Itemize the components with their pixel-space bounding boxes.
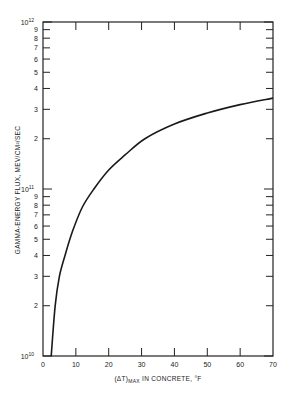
- y-tick-label: 8: [34, 202, 38, 209]
- y-tick-label: 1012: [21, 17, 35, 26]
- y-tick-label: 1011: [21, 184, 34, 193]
- y-tick-label: 3: [34, 273, 38, 280]
- y-tick-label: 2: [34, 302, 38, 309]
- plot-axes: [43, 22, 273, 356]
- chart-canvas: 1010234567891011234567891012 01020304050…: [0, 0, 289, 393]
- x-tick-label: 50: [203, 361, 211, 368]
- x-tick-label: 0: [41, 361, 45, 368]
- y-tick-label: 5: [34, 69, 38, 76]
- y-tick-label: 4: [34, 85, 38, 92]
- x-axis-label: (ΔT)MAX IN CONCRETE, °F: [114, 375, 201, 384]
- y-tick-label: 6: [34, 56, 38, 63]
- x-tick-label: 70: [269, 361, 277, 368]
- y-tick-label: 6: [34, 223, 38, 230]
- y-tick-label: 7: [34, 44, 38, 51]
- x-tick-label: 40: [171, 361, 179, 368]
- y-tick-label: 5: [34, 236, 38, 243]
- x-tick-label: 30: [138, 361, 146, 368]
- y-axis-ticks: 1010234567891011234567891012: [21, 17, 273, 360]
- x-tick-label: 10: [72, 361, 80, 368]
- y-axis-label: GAMMA-ENERGY FLUX, MEV/CM²/SEC: [14, 126, 21, 254]
- data-curve: [51, 98, 273, 356]
- y-tick-label: 4: [34, 252, 38, 259]
- y-tick-label: 7: [34, 211, 38, 218]
- x-tick-label: 60: [236, 361, 244, 368]
- y-tick-label: 3: [34, 106, 38, 113]
- y-tick-label: 8: [34, 35, 38, 42]
- x-axis-ticks: 010203040506070: [41, 22, 277, 368]
- y-tick-label: 9: [34, 193, 38, 200]
- y-tick-label: 1010: [21, 351, 35, 360]
- x-tick-label: 20: [105, 361, 113, 368]
- y-tick-label: 9: [34, 26, 38, 33]
- plot-frame: [43, 22, 273, 356]
- y-tick-label: 2: [34, 135, 38, 142]
